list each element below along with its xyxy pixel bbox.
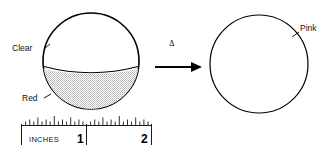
ruler-label-2: 2 — [141, 132, 148, 146]
ruler-ticks-inch-0-1 — [26, 116, 83, 126]
reactant-liquid-group — [40, 68, 142, 115]
pink-product-label: Pink — [300, 23, 317, 33]
reaction-group: Δ — [155, 38, 202, 72]
scale-ruler: INCHES 1 2 — [21, 116, 152, 146]
product-vessel-outline — [210, 15, 308, 113]
chemistry-reaction-figure: Clear Red Δ Pink — [0, 0, 334, 156]
reaction-arrow-head — [191, 62, 202, 72]
ruler-ticks-inch-1-2 — [91, 116, 148, 126]
red-liquid-layer — [40, 68, 142, 115]
delta-heat-symbol: Δ — [169, 38, 175, 48]
ruler-unit-label: INCHES — [29, 135, 59, 144]
red-layer-label: Red — [22, 93, 38, 103]
figure-canvas: Clear Red Δ Pink — [0, 0, 334, 156]
product-vessel-group: Pink — [210, 15, 317, 113]
clear-layer-label: Clear — [12, 43, 32, 53]
red-label-leader-line — [44, 94, 51, 98]
reactant-vessel-group — [40, 13, 142, 115]
ruler-label-1: 1 — [77, 132, 84, 146]
